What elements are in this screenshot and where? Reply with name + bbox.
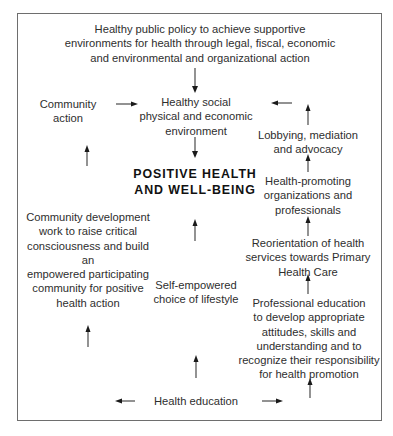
- node-reorientation: Reorientation of health services towards…: [240, 236, 376, 279]
- node-healthy-environment: Healthy social physical and economic env…: [130, 95, 262, 138]
- node-self-empowered: Self-empowered choice of lifestyle: [140, 278, 252, 307]
- node-positive-health: POSITIVE HEALTH AND WELL-BEING: [128, 167, 262, 198]
- node-public-policy: Healthy public policy to achieve support…: [40, 22, 360, 65]
- node-community-action: Community action: [24, 97, 112, 126]
- node-lobbying: Lobbying, mediation and advocacy: [248, 128, 368, 157]
- node-health-promoting-orgs: Health-promoting organizations and profe…: [248, 174, 368, 217]
- node-community-development: Community development work to raise crit…: [22, 210, 154, 310]
- node-health-education: Health education: [140, 394, 252, 408]
- node-professional-education: Professional education to develop approp…: [238, 296, 380, 382]
